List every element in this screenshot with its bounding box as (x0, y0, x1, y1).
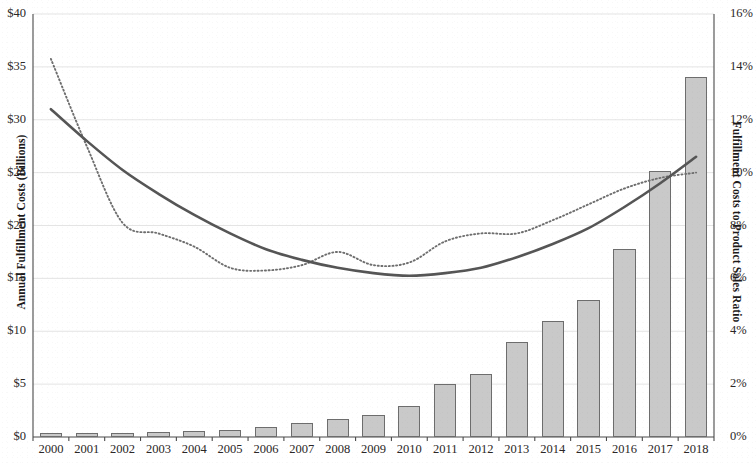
x-label-2004: 2004 (176, 442, 212, 457)
right-tick-6: 6% (730, 271, 747, 284)
x-label-2003: 2003 (141, 442, 177, 457)
x-label-2018: 2018 (678, 442, 714, 457)
right-tick-0: 0% (730, 430, 747, 443)
trend-lines (33, 14, 714, 437)
x-label-2010: 2010 (391, 442, 427, 457)
left-tick-25: $25 (0, 166, 26, 179)
x-label-2008: 2008 (320, 442, 356, 457)
x-label-2002: 2002 (105, 442, 141, 457)
x-axis-tick-labels: 2000200120022003200420052006200720082009… (33, 442, 714, 464)
left-tick-0: $0 (0, 430, 26, 443)
right-tick-10: 10% (730, 166, 753, 179)
x-label-2012: 2012 (463, 442, 499, 457)
x-label-2001: 2001 (69, 442, 105, 457)
right-tick-4: 4% (730, 324, 747, 337)
right-tick-2: 2% (730, 377, 747, 390)
right-tick-16: 16% (730, 7, 753, 20)
x-label-2007: 2007 (284, 442, 320, 457)
x-label-2005: 2005 (212, 442, 248, 457)
left-tick-10: $10 (0, 324, 26, 337)
right-tick-8: 8% (730, 219, 747, 232)
x-label-2009: 2009 (356, 442, 392, 457)
x-label-2000: 2000 (33, 442, 69, 457)
left-tick-30: $30 (0, 113, 26, 126)
x-label-2014: 2014 (535, 442, 571, 457)
right-tick-14: 14% (730, 60, 753, 73)
ratio-dotted-line (51, 59, 696, 271)
plot-area (33, 14, 714, 437)
left-tick-20: $20 (0, 219, 26, 232)
fulfillment-costs-chart: Annual Fulfillment Costs (Billions) Fulf… (0, 0, 756, 467)
left-tick-15: $15 (0, 271, 26, 284)
x-label-2013: 2013 (499, 442, 535, 457)
left-axis-tick-labels: $0$5$10$15$20$25$30$35$40 (0, 0, 32, 467)
x-label-2015: 2015 (571, 442, 607, 457)
x-label-2016: 2016 (606, 442, 642, 457)
left-tick-5: $5 (0, 377, 26, 390)
right-axis-tick-labels: 0%2%4%6%8%10%12%14%16% (722, 0, 756, 467)
polynomial-trend-line (51, 109, 696, 276)
x-label-2006: 2006 (248, 442, 284, 457)
left-tick-35: $35 (0, 60, 26, 73)
left-tick-40: $40 (0, 7, 26, 20)
x-label-2011: 2011 (427, 442, 463, 457)
right-tick-12: 12% (730, 113, 753, 126)
x-label-2017: 2017 (642, 442, 678, 457)
